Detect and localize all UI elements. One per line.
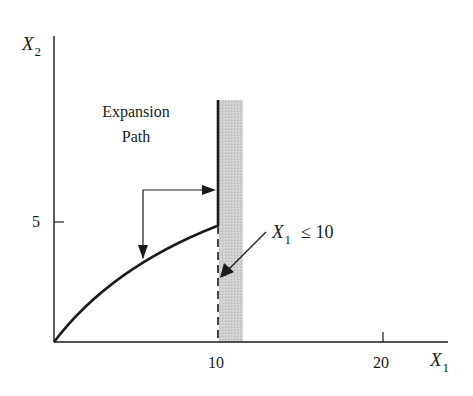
x-tick-label-10: 10: [208, 355, 224, 371]
expansion-path-curve: [54, 226, 217, 342]
expansion-path-label-line2: Path: [88, 129, 184, 145]
expansion-label-leader: [143, 190, 212, 258]
x-axis-label: X1: [430, 350, 449, 369]
diagram-canvas: [0, 0, 473, 396]
expansion-path-label-line1: Expansion: [88, 104, 184, 120]
y-axis-label: X2: [22, 34, 41, 53]
infeasible-region-shade: [219, 100, 243, 342]
arrow-to-boundary-icon: [202, 185, 216, 195]
x-tick-label-20: 20: [373, 355, 389, 371]
y-tick-label-5: 5: [32, 214, 40, 230]
arrow-to-curve-icon: [138, 245, 148, 259]
constraint-label: X1 ≤ 10: [272, 222, 334, 241]
